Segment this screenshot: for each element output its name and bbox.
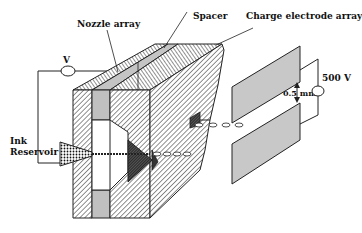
diagram-canvas: V Ink Reservoir — [0, 0, 362, 233]
charge-electrode-array-label: Charge electrode array — [246, 11, 362, 21]
ink-reservoir-label-line2: Reservoir — [10, 147, 58, 157]
deflection-voltage-source-icon — [312, 86, 324, 96]
spacer-label: Spacer — [193, 11, 228, 21]
voltage-source-icon — [61, 66, 75, 76]
voltage-source-label: V — [62, 55, 71, 65]
nozzle-array-label: Nozzle array — [77, 19, 141, 29]
droplets-upper-row — [195, 123, 243, 127]
deflection-voltage-label: 500 V — [322, 73, 352, 83]
ink-reservoir-label-line1: Ink — [10, 136, 28, 146]
